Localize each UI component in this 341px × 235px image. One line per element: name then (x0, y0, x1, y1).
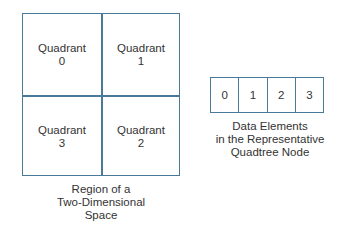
quadrant-2: Quadrant 2 (102, 96, 180, 177)
caption-line: Data Elements (200, 120, 340, 133)
quadrant-label: Quadrant (38, 42, 86, 55)
caption-line: Quadtree Node (200, 146, 340, 159)
quadrant-index: 0 (59, 55, 65, 68)
quadrant-label: Quadrant (117, 124, 165, 137)
quadrant-index: 1 (138, 55, 144, 68)
node-cell-3: 3 (296, 78, 323, 112)
quadrant-index: 3 (59, 137, 65, 150)
node-cell-1: 1 (239, 78, 267, 112)
caption-line: Two-Dimensional (22, 196, 180, 209)
caption-line: in the Representative (200, 133, 340, 146)
quadtree-node: 0 1 2 3 (210, 77, 324, 113)
quadrant-index: 2 (138, 137, 144, 150)
caption-line: Space (22, 209, 180, 222)
node-cell-0: 0 (211, 78, 239, 112)
region-caption: Region of a Two-Dimensional Space (22, 183, 180, 222)
two-dimensional-region: Quadrant 0 Quadrant 1 Quadrant 2 Quadran… (22, 13, 180, 176)
quadrant-1: Quadrant 1 (102, 14, 180, 95)
caption-line: Region of a (22, 183, 180, 196)
quadrant-0: Quadrant 0 (23, 14, 101, 95)
quadrant-3: Quadrant 3 (23, 96, 101, 177)
quadrant-label: Quadrant (38, 124, 86, 137)
quadrant-label: Quadrant (117, 42, 165, 55)
node-caption: Data Elements in the Representative Quad… (200, 120, 340, 159)
node-cell-2: 2 (268, 78, 296, 112)
